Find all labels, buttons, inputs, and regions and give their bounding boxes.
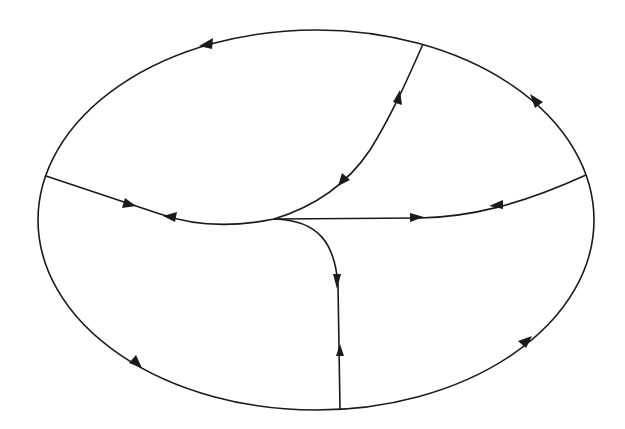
boundary-ellipse <box>38 30 594 410</box>
trajectory-center-top <box>274 44 423 219</box>
arrow-icon <box>336 344 344 356</box>
arrow-icon <box>122 198 136 208</box>
phase-portrait-diagram <box>0 0 625 429</box>
arrow-icon <box>333 274 341 289</box>
trajectory-center-right <box>274 175 586 219</box>
trajectory-center-bottom <box>274 219 340 409</box>
arrow-icon <box>410 213 424 222</box>
arrow-icon <box>163 212 177 222</box>
arrow-icon <box>338 173 350 186</box>
trajectory-left-center <box>46 176 274 224</box>
arrow-icon <box>129 355 142 368</box>
